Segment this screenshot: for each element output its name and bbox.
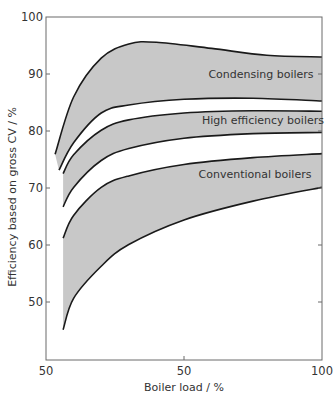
label-condensing-boilers: Condensing boilers bbox=[208, 68, 313, 81]
label-conventional-boilers: Conventional boilers bbox=[199, 168, 312, 181]
y-tick-90: 90 bbox=[28, 67, 43, 81]
y-tick-100: 100 bbox=[21, 10, 43, 24]
x-tick-50: 50 bbox=[177, 364, 192, 378]
y-tick-50: 50 bbox=[28, 295, 43, 309]
y-axis-title: Efficiency based on gross CV / % bbox=[6, 107, 19, 287]
label-high-efficiency-boilers: High efficiency boilers bbox=[202, 114, 324, 127]
y-tick-70: 70 bbox=[28, 181, 43, 195]
x-tick-100: 100 bbox=[311, 364, 333, 378]
y-tick-60: 60 bbox=[28, 238, 43, 252]
x-axis-title: Boiler load / % bbox=[144, 381, 224, 394]
x-tick-origin: 50 bbox=[39, 364, 54, 378]
efficiency-chart: 100 90 80 70 60 50 50 50 100 Boiler load… bbox=[0, 0, 336, 394]
efficiency-bands bbox=[55, 42, 322, 330]
y-tick-80: 80 bbox=[28, 124, 43, 138]
